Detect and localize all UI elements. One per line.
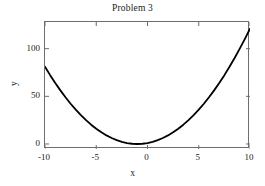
x-tick-label: 0 (144, 152, 149, 162)
x-tick-label: 10 (245, 152, 254, 162)
x-tick-label: -5 (92, 152, 100, 162)
data-line-series-0 (45, 29, 250, 144)
y-tick-label: 100 (8, 43, 40, 53)
tick-marks (45, 22, 250, 149)
x-axis-label: x (0, 168, 265, 179)
chart-title: Problem 3 (0, 3, 265, 14)
y-tick-label: 0 (8, 138, 40, 148)
y-axis-label: y (9, 73, 20, 95)
x-tick-label: -10 (38, 152, 50, 162)
chart-figure: Problem 3 050100 -10-50510 x y (0, 0, 265, 186)
data-series-group (45, 29, 250, 144)
x-tick-label: 5 (196, 152, 201, 162)
plot-area (44, 21, 249, 148)
plot-canvas (45, 22, 250, 149)
